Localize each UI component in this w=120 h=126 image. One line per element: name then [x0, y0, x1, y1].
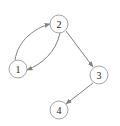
node-4: 4 — [50, 101, 68, 119]
node-1: 1 — [9, 60, 27, 78]
edge-1-to-2 — [15, 24, 50, 60]
edge-3-to-4 — [66, 83, 93, 104]
node-2: 2 — [50, 15, 68, 33]
node-3-label: 3 — [97, 70, 102, 81]
node-1-label: 1 — [16, 64, 21, 75]
node-4-label: 4 — [57, 105, 62, 116]
node-3: 3 — [90, 66, 108, 84]
edge-2-to-3 — [66, 31, 93, 67]
directed-graph: 1 2 3 4 — [0, 0, 120, 126]
edge-2-to-1 — [27, 33, 60, 70]
node-2-label: 2 — [57, 19, 62, 30]
